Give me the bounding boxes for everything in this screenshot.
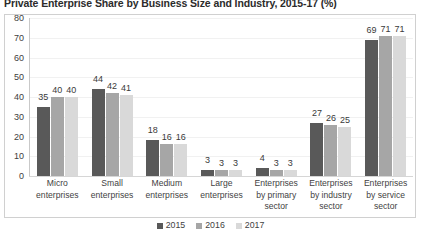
category-label: Small enterprises [85, 178, 140, 201]
y-axis-labels: 80706050403020100 [0, 18, 26, 176]
bar-value-label: 69 [367, 26, 377, 35]
y-axis-tick: 50 [14, 73, 24, 82]
bar-value-label: 25 [340, 116, 350, 125]
y-axis-tick: 80 [14, 14, 24, 23]
bar-group: 333 [194, 18, 249, 176]
bar[interactable] [379, 36, 392, 176]
bar-slot: 44 [92, 18, 105, 176]
legend-item-2015[interactable]: 2015 [157, 221, 186, 230]
bar-slot: 16 [160, 18, 173, 176]
bar[interactable] [215, 170, 228, 176]
bar-slot: 4 [256, 18, 269, 176]
legend-label: 2017 [245, 221, 265, 230]
bar[interactable] [146, 140, 159, 176]
bar[interactable] [65, 97, 78, 176]
bar-slot: 69 [365, 18, 378, 176]
bar[interactable] [256, 168, 269, 176]
bar-group: 433 [249, 18, 304, 176]
bar-value-label: 4 [260, 154, 265, 163]
bar-slot: 27 [310, 18, 323, 176]
chart-figure: Private Enterprise Share by Business Siz… [0, 0, 421, 240]
bar[interactable] [338, 127, 351, 176]
bar[interactable] [229, 170, 242, 176]
bar-slot: 35 [37, 18, 50, 176]
bar-slot: 40 [51, 18, 64, 176]
bar-group-bars: 433 [249, 18, 304, 176]
bar-slot: 3 [270, 18, 283, 176]
bar-group: 697171 [358, 18, 413, 176]
bar-value-label: 44 [93, 75, 103, 84]
bar-value-label: 41 [121, 84, 131, 93]
bar[interactable] [37, 107, 50, 176]
axis-baseline [29, 176, 413, 177]
bar-slot: 18 [146, 18, 159, 176]
bar-slot: 41 [120, 18, 133, 176]
bar-slot: 25 [338, 18, 351, 176]
legend-item-2017[interactable]: 2017 [236, 221, 265, 230]
bar-group: 272625 [304, 18, 359, 176]
bar[interactable] [120, 95, 133, 176]
chart-title: Private Enterprise Share by Business Siz… [4, 0, 417, 10]
category-label: Medium enterprises [139, 178, 194, 201]
bar-group-bars: 272625 [304, 18, 359, 176]
bar-group: 444241 [85, 18, 140, 176]
bar[interactable] [106, 93, 119, 176]
bar-slot: 3 [229, 18, 242, 176]
plot-area: 354040444241181616333433272625697171 [30, 18, 413, 176]
bar-slot: 3 [201, 18, 214, 176]
y-axis-tick: 60 [14, 53, 24, 62]
bar-value-label: 71 [381, 25, 391, 34]
bar-value-label: 71 [395, 25, 405, 34]
bar-value-label: 27 [312, 109, 322, 118]
bar-group-bars: 181616 [139, 18, 194, 176]
bar-group: 181616 [139, 18, 194, 176]
bar[interactable] [160, 144, 173, 176]
bar-slot: 26 [324, 18, 337, 176]
bar-group: 354040 [30, 18, 85, 176]
bar-slot: 3 [215, 18, 228, 176]
bar-value-label: 40 [52, 86, 62, 95]
bar-value-label: 26 [326, 114, 336, 123]
bar[interactable] [310, 123, 323, 176]
bar[interactable] [365, 40, 378, 176]
bar-slot: 3 [284, 18, 297, 176]
bar[interactable] [201, 170, 214, 176]
bar-value-label: 40 [66, 86, 76, 95]
bar-group-bars: 333 [194, 18, 249, 176]
category-axis-labels: Micro enterprisesSmall enterprisesMedium… [30, 178, 413, 216]
bar-value-label: 3 [219, 159, 224, 168]
bar-value-label: 35 [38, 93, 48, 102]
y-axis-tick: 10 [14, 152, 24, 161]
bar-value-label: 3 [274, 159, 279, 168]
category-label: Micro enterprises [30, 178, 85, 201]
bar[interactable] [393, 36, 406, 176]
legend-label: 2015 [166, 221, 186, 230]
y-axis-tick: 40 [14, 93, 24, 102]
legend-item-2016[interactable]: 2016 [196, 221, 225, 230]
legend-swatch-icon [236, 223, 242, 229]
bar-value-label: 18 [148, 126, 158, 135]
bar-group-bars: 444241 [85, 18, 140, 176]
bar[interactable] [270, 170, 283, 176]
bar-value-label: 16 [162, 133, 172, 142]
y-axis-tick: 70 [14, 33, 24, 42]
y-axis-tick: 30 [14, 112, 24, 121]
bar[interactable] [284, 170, 297, 176]
chart-legend: 201520162017 [0, 221, 421, 230]
legend-swatch-icon [157, 223, 163, 229]
bar-value-label: 3 [233, 159, 238, 168]
y-axis-tick: 20 [14, 132, 24, 141]
bar-slot: 40 [65, 18, 78, 176]
bar-group-bars: 354040 [30, 18, 85, 176]
bar[interactable] [174, 144, 187, 176]
bar[interactable] [51, 97, 64, 176]
bar[interactable] [92, 89, 105, 176]
bar[interactable] [324, 125, 337, 176]
bar-slot: 71 [379, 18, 392, 176]
bar-value-label: 3 [288, 159, 293, 168]
y-axis-tick: 0 [19, 172, 24, 181]
legend-label: 2016 [205, 221, 225, 230]
category-label: Enterprises by industry sector [304, 178, 359, 213]
bar-slot: 42 [106, 18, 119, 176]
bar-value-label: 42 [107, 82, 117, 91]
